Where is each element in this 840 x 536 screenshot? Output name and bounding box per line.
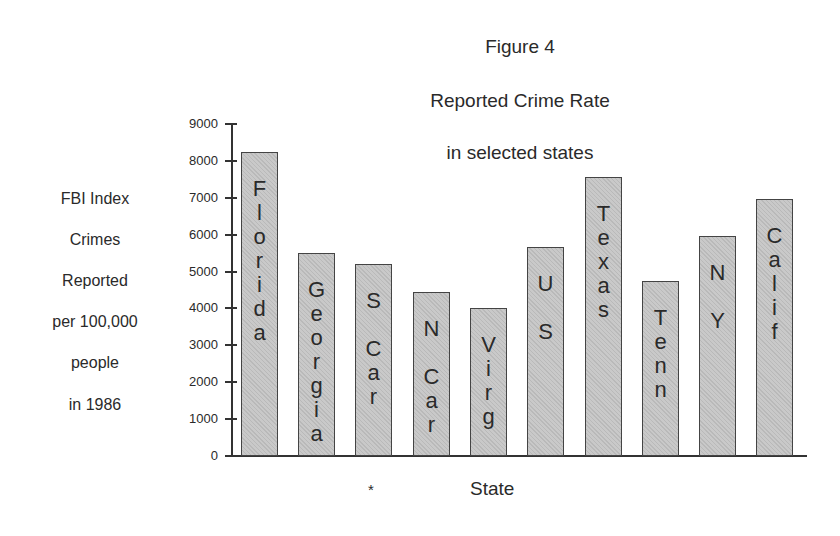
chart-subtitle-line2: in selected states — [400, 142, 640, 164]
y-tick-label: 9000 — [150, 117, 218, 131]
y-axis-label-line: people — [20, 354, 170, 372]
bar-s-car: S C a r — [355, 264, 392, 456]
x-axis-label: State — [470, 478, 514, 500]
y-axis-label-line: Crimes — [20, 231, 170, 249]
y-axis-label-line: per 100,000 — [20, 313, 170, 331]
chart-subtitle-line1: Reported Crime Rate — [400, 90, 640, 112]
y-tick-label: 2000 — [150, 375, 218, 389]
y-axis-label-line: Reported — [20, 272, 170, 290]
y-tick-label: 8000 — [150, 154, 218, 168]
bar-florida: F l o r i d a — [241, 152, 278, 456]
y-tick-label: 7000 — [150, 191, 218, 205]
bar-virg: V i r g — [470, 308, 507, 456]
y-axis-label-line: FBI Index — [20, 190, 170, 208]
bar-label: U S — [528, 272, 563, 344]
bar-us: U S — [527, 247, 564, 456]
bar-label: V i r g — [471, 333, 506, 429]
bar-label: S C a r — [356, 289, 391, 409]
bar-ny: N Y — [699, 236, 736, 456]
bar-label: C a l i f — [757, 224, 792, 344]
y-tick-label: 3000 — [150, 338, 218, 352]
bar-label: F l o r i d a — [242, 177, 277, 345]
y-tick-label: 0 — [150, 449, 218, 463]
bar-georgia: G e o r g i a — [298, 253, 335, 456]
bar-label: T e n n — [643, 306, 678, 402]
bar-label: N Y — [700, 261, 735, 333]
bar-label: N C a r — [414, 317, 449, 437]
footnote-marker: * — [368, 481, 374, 498]
bar-tenn: T e n n — [642, 281, 679, 456]
bar-label: G e o r g i a — [299, 278, 334, 446]
y-axis-label-line: in 1986 — [20, 396, 170, 414]
y-tick-label: 5000 — [150, 265, 218, 279]
bar-label: T e x a s — [586, 202, 621, 322]
bar-texas: T e x a s — [585, 177, 622, 456]
y-axis-line — [231, 124, 233, 457]
y-tick-label: 1000 — [150, 412, 218, 426]
bar-n-car: N C a r — [413, 292, 450, 456]
chart-title: Figure 4 — [400, 36, 640, 58]
bar-calif: C a l i f — [756, 199, 793, 456]
y-tick-label: 4000 — [150, 301, 218, 315]
y-tick-label: 6000 — [150, 228, 218, 242]
